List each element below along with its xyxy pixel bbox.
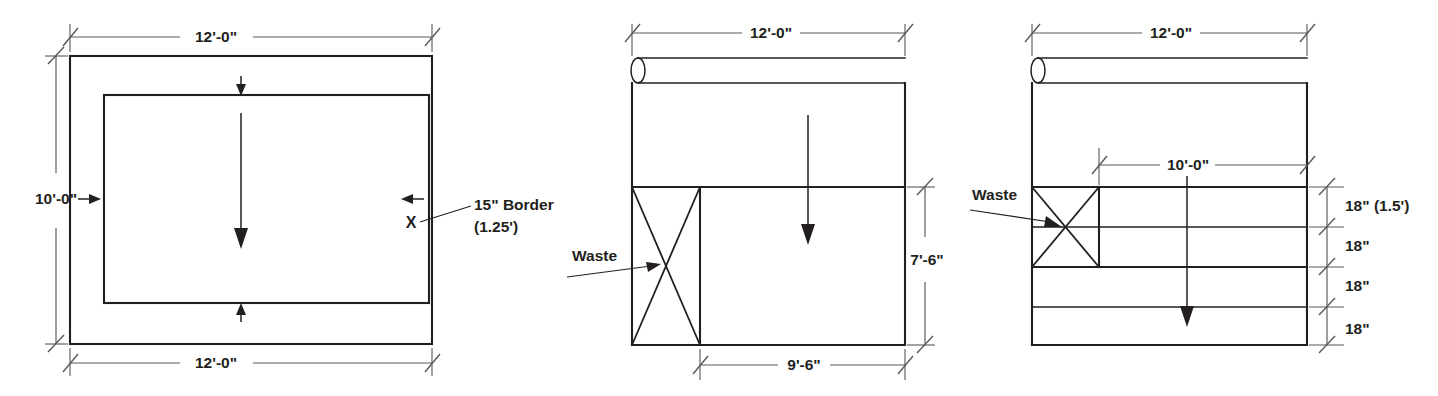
border-label-line1: 15" Border: [474, 196, 554, 213]
dim3-strip-label-3: 18": [1345, 277, 1370, 294]
diagram-roll-9ft6: 12'-0": [567, 24, 944, 380]
waste-x-hatch-2: [632, 187, 700, 345]
carpet-roll-tube: [631, 58, 905, 83]
inner-field-rect: [104, 95, 429, 303]
flow-direction-arrow: [234, 113, 248, 249]
dim3-strip-label-2: 18": [1345, 237, 1370, 254]
dim3-top-width-label: 12'-0": [1150, 24, 1192, 41]
waste-label-2: Waste: [572, 247, 617, 264]
figure-sheet: 12'-0" 10'-0" 12'-0": [0, 0, 1438, 396]
border-label-line2: (1.25'): [474, 218, 518, 235]
dim-left-height-label: 10'-0": [35, 190, 77, 207]
dim3-strip-label-1: 18" (1.5'): [1345, 197, 1409, 214]
dim2-top-width-label: 12'-0": [750, 24, 792, 41]
dim3-strip-heights: 18" (1.5') 18" 18" 18": [1309, 178, 1409, 353]
diagram-room-with-border: 12'-0" 10'-0" 12'-0": [35, 24, 554, 376]
flow-direction-arrow-2: [801, 115, 815, 245]
carpet-sheet-body: [632, 83, 905, 345]
dim2-right-7ft6: 7'-6": [907, 178, 944, 353]
border-callout-leader: [420, 206, 471, 222]
dim3-top-12ft: 12'-0": [1025, 24, 1315, 56]
outer-room-rect: [70, 56, 432, 344]
dim3-strip-label-4: 18": [1345, 320, 1370, 337]
border-arrow-right: [401, 194, 424, 204]
diagram-roll-border-strips: 12'-0": [970, 24, 1409, 353]
flow-direction-arrow-3: [1180, 176, 1194, 327]
border-arrow-bottom: [236, 303, 246, 322]
waste-leader-3: [970, 210, 1062, 227]
dim2-bottom-9ft6: 9'-6": [693, 349, 913, 380]
dim2-top-12ft: 12'-0": [625, 24, 913, 56]
waste-leader-2: [567, 262, 661, 277]
carpet-roll-tube-3: [1031, 58, 1307, 83]
diagram-canvas: 12'-0" 10'-0" 12'-0": [0, 0, 1438, 396]
border-arrow-left: [78, 194, 101, 204]
dim-bottom-12ft: 12'-0": [63, 348, 440, 376]
border-x-marker: X: [406, 214, 417, 231]
carpet-sheet-body-3: [1032, 83, 1307, 345]
dim-top-12ft: 12'-0": [63, 24, 440, 52]
border-arrow-top: [236, 76, 246, 96]
waste-label-3: Waste: [972, 186, 1017, 203]
dim2-bottom-width-label: 9'-6": [787, 356, 820, 373]
dim3-strip-width-label: 10'-0": [1167, 156, 1209, 173]
dim3-strip-10ft: 10'-0": [1092, 148, 1315, 185]
dim2-right-height-label: 7'-6": [910, 251, 943, 268]
dim-bottom-width-label: 12'-0": [195, 354, 237, 371]
dim-top-width-label: 12'-0": [195, 28, 237, 45]
